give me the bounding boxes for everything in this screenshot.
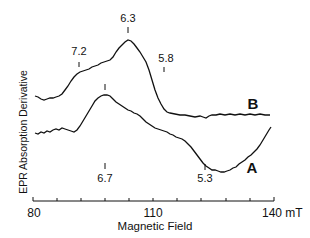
annotation-5-8: 5.8 — [158, 52, 173, 64]
annotation-7-2: 7.2 — [71, 45, 86, 57]
annotation-6-3: 6.3 — [120, 12, 135, 24]
curve-a — [35, 95, 271, 172]
curve-b — [35, 40, 270, 118]
annotation-5-3: 5.3 — [197, 172, 212, 184]
curve-b-label: B — [248, 95, 259, 112]
x-axis-label: Magnetic Field — [118, 220, 193, 232]
x-tick-110: 110 — [143, 206, 162, 220]
x-tick-140: 140 mT — [262, 206, 303, 220]
y-axis-label: EPR Absorption Derivative — [17, 70, 29, 194]
curve-a-label: A — [247, 159, 258, 176]
x-axis — [33, 197, 274, 201]
x-tick-80: 80 — [27, 206, 41, 220]
epr-spectrum-chart: EPR Absorption Derivative 7.2 6.3 5.8 6.… — [0, 0, 310, 238]
annotation-6-7: 6.7 — [97, 172, 112, 184]
